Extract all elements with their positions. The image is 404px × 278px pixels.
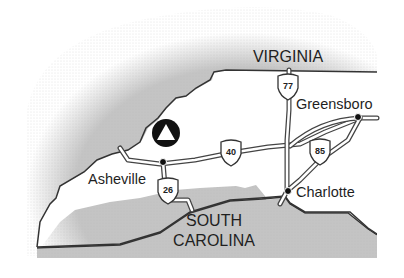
state-label-south-carolina-line1: SOUTH: [186, 212, 242, 229]
charlotte-dot: [285, 188, 292, 195]
state-label-south-carolina-line2: CAROLINA: [173, 232, 255, 249]
interstate-85-label: 85: [315, 146, 325, 156]
interstate-26-label: 26: [163, 185, 173, 195]
triangle-in-circle-icon: [152, 119, 180, 147]
city-label-charlotte: Charlotte: [296, 184, 355, 200]
city-label-greensboro: Greensboro: [296, 96, 373, 112]
greensboro-dot: [355, 114, 362, 121]
state-label-virginia: VIRGINIA: [253, 48, 324, 65]
interstate-40-label: 40: [226, 147, 236, 157]
asheville-dot: [160, 159, 167, 166]
north-carolina-map: 77 40 85 26 VIRGINIA SOUTH CAROLINA Gree…: [0, 0, 404, 278]
interstate-77-label: 77: [283, 81, 293, 91]
city-label-asheville: Asheville: [88, 171, 146, 187]
